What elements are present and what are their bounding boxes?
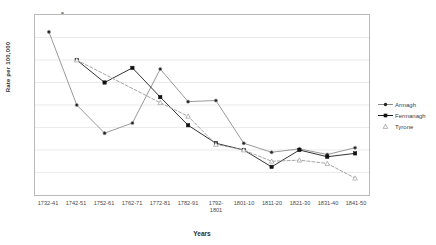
- x-tick-label: 1841-50: [333, 200, 379, 207]
- series-line-armagh: [49, 32, 355, 155]
- legend-marker-triangle-icon: [377, 122, 394, 131]
- x-axis-title: Years: [34, 230, 370, 237]
- data-point-tyrone: [186, 114, 191, 118]
- data-point-fermanagh: [270, 165, 273, 168]
- chart-legend: ArmaghFermanaghTyrone: [377, 99, 426, 132]
- data-point-fermanagh: [159, 95, 162, 98]
- series-line-tyrone: [77, 60, 355, 178]
- legend-item-fermanagh: Fermanagh: [377, 110, 426, 121]
- data-point-armagh: [270, 151, 273, 154]
- plot-svg: [35, 15, 369, 195]
- data-point-fermanagh: [103, 81, 106, 84]
- data-point-fermanagh: [298, 148, 301, 151]
- legend-item-armagh: Armagh: [377, 99, 426, 110]
- data-point-armagh: [353, 146, 356, 149]
- data-point-tyrone: [353, 176, 358, 180]
- data-point-armagh: [131, 121, 134, 124]
- data-point-armagh: [47, 30, 50, 33]
- data-point-armagh: [242, 142, 245, 145]
- data-point-fermanagh: [353, 152, 356, 155]
- data-point-armagh: [214, 99, 217, 102]
- data-point-fermanagh: [326, 155, 329, 158]
- data-point-tyrone: [158, 100, 163, 104]
- data-point-fermanagh: [131, 66, 134, 69]
- chart-figure: Rate per 100,000 12345678 1732-411742-51…: [0, 0, 436, 245]
- data-point-fermanagh: [186, 124, 189, 127]
- legend-label: Tyrone: [395, 124, 413, 130]
- clipped-top-markers: [0, 0, 436, 6]
- data-point-armagh: [159, 67, 162, 70]
- plot-area: [34, 14, 370, 196]
- legend-label: Fermanagh: [395, 113, 426, 119]
- series-line-fermanagh: [77, 60, 355, 167]
- data-point-tyrone: [325, 161, 330, 165]
- data-point-armagh: [186, 100, 189, 103]
- legend-marker-circle-icon: [377, 100, 394, 109]
- data-point-armagh: [75, 103, 78, 106]
- y-axis-title: Rate per 100,000: [5, 7, 11, 127]
- legend-item-tyrone: Tyrone: [377, 121, 426, 132]
- legend-marker-square-icon: [377, 111, 394, 120]
- data-point-armagh: [103, 132, 106, 135]
- legend-label: Armagh: [395, 102, 416, 108]
